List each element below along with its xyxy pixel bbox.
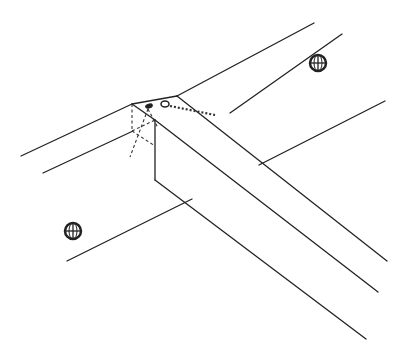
board-right [259, 101, 385, 165]
board-top-upper-mid [132, 96, 177, 104]
beam-drawing [0, 0, 404, 351]
fasteners [130, 101, 215, 157]
board-top-upper-right [177, 23, 314, 96]
board-top-upper-left [21, 104, 132, 156]
knot-top-right-icon [310, 55, 326, 71]
board-left [67, 199, 192, 261]
nail-head-icon [144, 102, 153, 109]
knot-bottom-left-icon [65, 223, 81, 239]
diagram-canvas [0, 0, 404, 351]
screw-hole-icon [161, 101, 169, 107]
board-top-lower-right [230, 34, 342, 113]
beam-bottom-edge [155, 180, 366, 339]
hidden-edge-diagonal [132, 131, 155, 146]
beam-top-far-edge [177, 96, 387, 261]
beam [132, 96, 387, 339]
screw-path [170, 106, 215, 115]
board-top-lower-left [43, 131, 133, 173]
nail-shank-path [130, 109, 148, 157]
